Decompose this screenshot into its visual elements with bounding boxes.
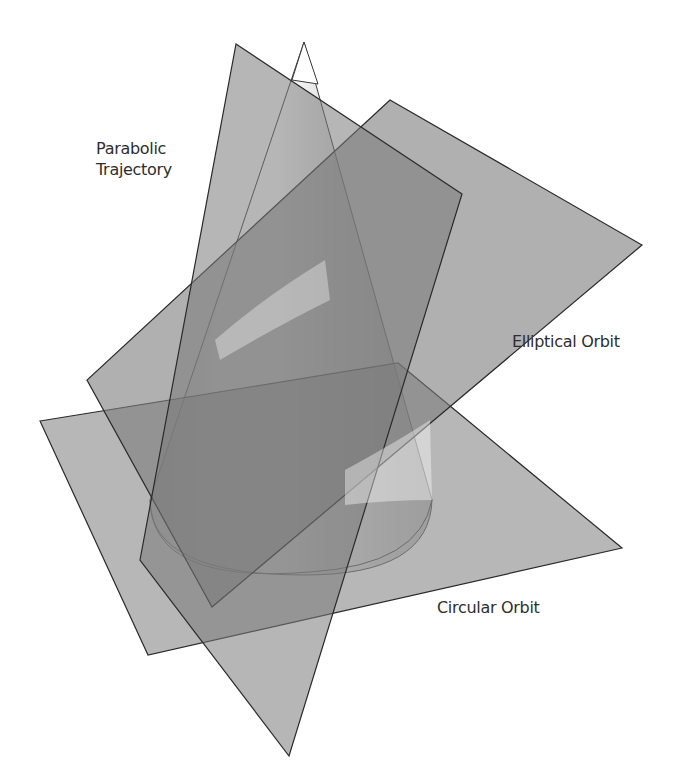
cone-apex <box>292 42 318 84</box>
parabolic-trajectory-label: ParabolicTrajectory <box>96 138 172 180</box>
elliptical-orbit-label: Elliptical Orbit <box>512 331 620 352</box>
circular-orbit-label: Circular Orbit <box>437 597 540 618</box>
parabolic-label-line1: Parabolic <box>96 139 166 158</box>
parabolic-label-line2: Trajectory <box>96 160 172 179</box>
conic-sections-diagram <box>0 0 675 773</box>
